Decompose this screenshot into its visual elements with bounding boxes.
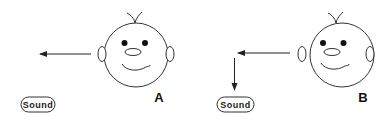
sound-badge-b: Sound — [217, 97, 254, 112]
face-a-icon — [98, 12, 174, 87]
face-b-icon — [298, 12, 374, 87]
sound-badge-a: Sound — [21, 97, 55, 112]
panel-b: Sound B — [217, 12, 374, 112]
sound-label-b: Sound — [220, 100, 251, 110]
panel-a: Sound A — [21, 12, 174, 112]
diagram-canvas: Sound A Sound B — [0, 0, 387, 127]
sound-label-a: Sound — [23, 100, 54, 110]
panel-label-a: A — [154, 90, 164, 105]
panel-label-b: B — [358, 90, 367, 105]
